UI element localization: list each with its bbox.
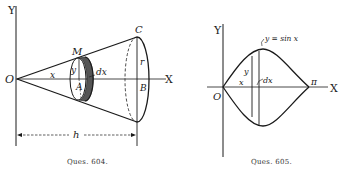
caption-605: Ques. 605. (251, 158, 292, 166)
B-label: B (139, 83, 147, 93)
cone-base-back (125, 37, 137, 122)
x-label-604: x (50, 70, 55, 80)
y-label-605: y (243, 67, 249, 76)
h-label: h (73, 129, 79, 140)
r-label: r (140, 57, 145, 67)
y-label-604: y (70, 65, 77, 75)
M-label: M (71, 46, 83, 57)
C-label: C (135, 24, 143, 35)
caption-604: Ques. 604. (67, 158, 108, 166)
h-arrow-left (17, 133, 22, 137)
A-label: A (75, 82, 83, 92)
h-arrow-right (131, 133, 136, 137)
cone-base-front (137, 37, 149, 122)
x-axis-label-605: X (330, 82, 338, 95)
origin-label-604: O (5, 73, 14, 86)
x-axis-label-604: X (165, 73, 173, 86)
y-axis-label-604: Y (7, 4, 16, 17)
dx-label-605: dx (263, 76, 273, 85)
y-axis-label-605: Y (213, 24, 222, 37)
x-label-605: x (239, 78, 244, 87)
dx-label-604: dx (96, 67, 107, 77)
origin-label-605: O (213, 91, 221, 102)
sine-curve-lower (223, 87, 309, 126)
curve-label: y = sin x (264, 34, 299, 43)
figure-605 (207, 24, 328, 157)
figure-604 (16, 6, 166, 146)
figure-container: Y X O x y M A dx C r B h Ques. 604. Y X … (0, 0, 348, 173)
curve-label-pointer (261, 39, 264, 46)
pi-label: π (310, 77, 318, 87)
